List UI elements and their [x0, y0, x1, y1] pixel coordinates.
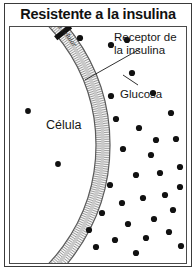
- glucose-dot: [86, 227, 92, 233]
- glucose-dot: [168, 110, 174, 116]
- glucose-dot: [177, 164, 183, 170]
- diagram-stage: Membrana celular Receptor de la insulina…: [10, 27, 186, 263]
- glucose-dot: [178, 243, 184, 249]
- glucose-dot: [140, 195, 146, 201]
- glucose-dot: [177, 184, 183, 190]
- glucose-dot: [125, 221, 131, 227]
- glucose-dot: [157, 170, 163, 176]
- figure-title: Resistente a la insulina: [0, 6, 196, 22]
- glucose-dot: [108, 93, 114, 99]
- glucose-dot: [170, 207, 176, 213]
- glucose-dot: [120, 146, 126, 152]
- membrane-hatching: [9, 26, 111, 264]
- glucose-dot: [93, 244, 99, 250]
- insulin-receptors: [21, 26, 70, 264]
- glucose-dot: [151, 216, 157, 222]
- glucose-dot: [166, 229, 172, 235]
- glucose-dot: [112, 237, 118, 243]
- diagram-panel: Membrana celular Receptor de la insulina…: [9, 26, 187, 264]
- glucose-dot: [148, 152, 154, 158]
- glucose-dot: [113, 116, 119, 122]
- receptor-label: Receptor de la insulina: [114, 31, 177, 56]
- cell-label: Célula: [46, 119, 81, 132]
- cell-membrane: [9, 26, 111, 264]
- receptor-label-line2: la insulina: [114, 44, 177, 57]
- glucose-dot: [136, 125, 142, 131]
- diagram-graphics: Membrana celular: [10, 27, 186, 263]
- glucose-dot: [173, 136, 179, 142]
- glucose-dot: [107, 182, 113, 188]
- glucose-dot: [77, 35, 83, 41]
- glucose-label: Glucosa: [120, 88, 162, 101]
- glucose-dots-inside: [25, 108, 61, 167]
- glucose-dot: [99, 210, 105, 216]
- receptor-label-line1: Receptor de: [114, 31, 177, 44]
- glucosa-leader: [123, 75, 138, 85]
- glucose-dot: [129, 70, 135, 76]
- glucose-dot: [119, 200, 125, 206]
- glucose-dot: [153, 137, 159, 143]
- insulin-resistance-figure: Resistente a la insulina: [0, 0, 196, 271]
- glucose-dot: [25, 108, 31, 114]
- glucose-dot: [133, 250, 139, 256]
- glucose-dot: [55, 161, 61, 167]
- glucose-dot: [133, 172, 139, 178]
- glucose-dot: [143, 235, 149, 241]
- glucose-dot: [162, 192, 168, 198]
